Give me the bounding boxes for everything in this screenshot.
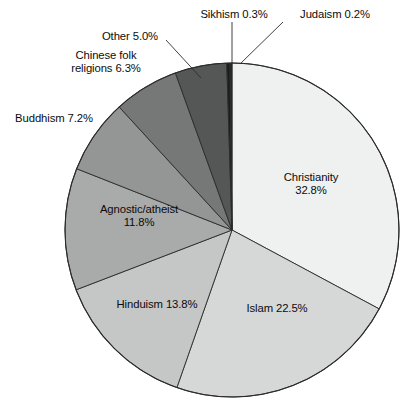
leader-line-judaism: [240, 22, 283, 64]
slice-label-chinese-line1: Chinese folk: [76, 49, 137, 61]
pie-chart-page: Sikhism 0.3% Judaism 0.2% Other 5.0% Chi…: [0, 0, 409, 407]
slice-label-hinduism: Hinduism 13.8%: [98, 298, 216, 311]
slice-label-christianity-line1: Christianity: [284, 171, 339, 183]
pie-slice-group: [65, 63, 399, 397]
slice-label-agnostic-atheist: Agnostic/atheist11.8%: [72, 203, 206, 230]
slice-label-sikhism: Sikhism 0.3%: [186, 8, 282, 21]
slice-label-chinese-folk-religions: Chinese folkreligions 6.3%: [50, 49, 162, 76]
slice-label-agnostic-line1: Agnostic/atheist: [100, 203, 178, 215]
slice-label-other: Other 5.0%: [84, 30, 176, 43]
slice-label-chinese-line2: religions 6.3%: [71, 62, 141, 74]
slice-label-agnostic-line2: 11.8%: [124, 216, 155, 228]
slice-label-christianity: Christianity32.8%: [262, 171, 360, 198]
slice-label-judaism: Judaism 0.2%: [287, 8, 383, 21]
slice-label-islam: Islam 22.5%: [222, 302, 332, 315]
slice-label-christianity-line2: 32.8%: [295, 184, 327, 196]
slice-label-buddhism: Buddhism 7.2%: [6, 112, 102, 125]
